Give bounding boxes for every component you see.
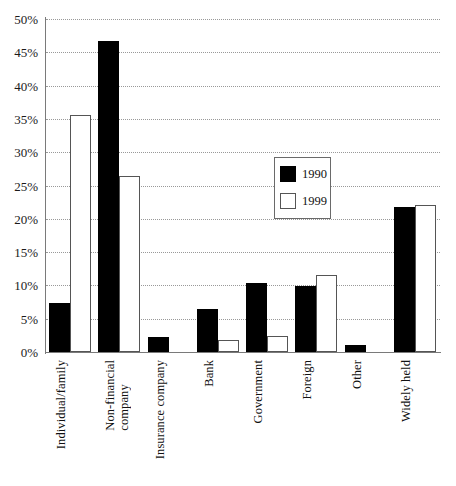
chart-legend: 1990 1999	[274, 157, 331, 219]
y-axis-tick-label: 50%	[0, 13, 38, 26]
plot-area	[46, 19, 440, 352]
y-axis-tick-label: 0%	[0, 346, 38, 359]
bar-1990-widely-held	[394, 207, 415, 352]
legend-label-1999: 1999	[302, 195, 327, 208]
bar-1990-individual-family	[49, 303, 70, 352]
legend-label-1990: 1990	[302, 168, 327, 181]
bar-1999-individual-family	[70, 115, 91, 352]
y-axis-tick-label: 25%	[0, 180, 38, 193]
legend-entry-1990: 1990	[280, 165, 327, 183]
y-axis-tick-label: 5%	[0, 313, 38, 326]
legend-swatch-1999-icon	[280, 193, 296, 209]
bar-1999-bank	[218, 340, 239, 352]
category-label: Bank	[203, 360, 217, 387]
gridline	[46, 19, 440, 20]
y-axis-tick-label: 10%	[0, 279, 38, 292]
category-label: Non-financial company	[104, 360, 131, 431]
y-axis-tick-label: 30%	[0, 146, 38, 159]
category-label: Widely held	[400, 360, 414, 422]
legend-entry-1999: 1999	[280, 192, 327, 210]
bar-chart: 0%5%10%15%20%25%30%35%40%45%50% Individu…	[0, 0, 456, 486]
bar-1990-insurance-company	[148, 337, 169, 352]
y-axis-tick-label: 35%	[0, 113, 38, 126]
category-label: Insurance company	[154, 360, 168, 459]
bar-1990-government	[246, 283, 267, 352]
category-label: Government	[252, 360, 266, 423]
category-label: Other	[351, 360, 365, 389]
category-label: Foreign	[301, 360, 315, 400]
category-label: Individual/family	[55, 360, 69, 449]
bar-1999-government	[267, 336, 288, 352]
x-axis-line	[45, 352, 441, 353]
y-axis-tick-label: 45%	[0, 46, 38, 59]
y-axis-tick-label: 15%	[0, 246, 38, 259]
bar-1999-non-financial-company	[119, 176, 140, 352]
bar-1990-foreign	[295, 286, 316, 352]
bar-1990-other	[345, 345, 366, 352]
y-axis-tick-label: 20%	[0, 213, 38, 226]
bar-1999-foreign	[316, 275, 337, 352]
bar-1990-bank	[197, 309, 218, 352]
legend-swatch-1990-icon	[280, 166, 296, 182]
y-axis-tick-label: 40%	[0, 80, 38, 93]
bar-1990-non-financial-company	[98, 41, 119, 352]
bar-1999-widely-held	[415, 205, 436, 352]
